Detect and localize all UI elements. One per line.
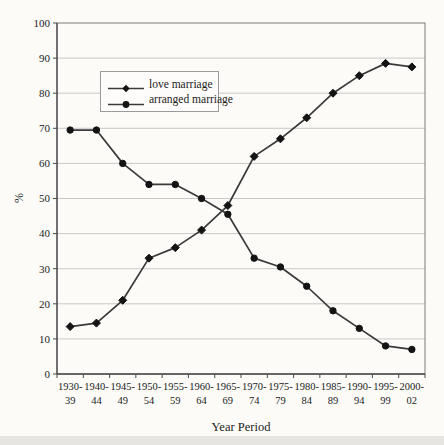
x-tick-label: 1960-64	[189, 381, 214, 406]
x-tick-label: 1980-84	[294, 381, 319, 406]
x-tick-label: 1950-54	[137, 381, 162, 406]
data-point-arranged-marriage	[146, 181, 152, 187]
x-tick-label: 1990-94	[347, 381, 372, 406]
y-tick-label: 40	[39, 227, 51, 239]
y-tick-label: 50	[39, 192, 51, 204]
legend-label: love marriage	[149, 78, 213, 90]
data-point-love-marriage	[382, 59, 390, 67]
data-point-arranged-marriage	[120, 160, 126, 166]
x-tick-label: 1995-99	[373, 381, 398, 406]
data-point-love-marriage	[408, 63, 416, 71]
y-tick-label: 10	[39, 333, 51, 345]
chart-plot-area: 01020304050607080901001930-391940-441945…	[0, 0, 444, 445]
x-tick-label: 1985-89	[321, 381, 346, 406]
data-point-arranged-marriage	[225, 211, 231, 217]
data-point-arranged-marriage	[330, 308, 336, 314]
data-point-arranged-marriage	[356, 325, 362, 331]
x-tick-label: 1930-39	[58, 381, 83, 406]
data-point-arranged-marriage	[251, 255, 257, 261]
legend-label: arranged marriage	[149, 93, 233, 105]
data-point-arranged-marriage	[382, 343, 388, 349]
y-tick-label: 0	[45, 368, 51, 380]
data-point-arranged-marriage	[67, 127, 73, 133]
data-point-arranged-marriage	[277, 264, 283, 270]
legend-entry-arranged-marriage: arranged marriage	[107, 93, 214, 105]
x-tick-label: 1965-69	[216, 381, 241, 406]
data-point-love-marriage	[66, 323, 74, 331]
data-point-arranged-marriage	[304, 283, 310, 289]
marriage-trend-chart: 01020304050607080901001930-391940-441945…	[0, 0, 444, 445]
x-tick-label: 1940-44	[84, 381, 109, 406]
x-tick-label: 1955-59	[163, 381, 188, 406]
data-point-arranged-marriage	[409, 346, 415, 352]
y-tick-label: 60	[39, 157, 51, 169]
legend-entry-love-marriage: love marriage	[107, 78, 214, 90]
y-tick-label: 90	[39, 52, 51, 64]
data-point-arranged-marriage	[172, 181, 178, 187]
data-point-love-marriage	[145, 254, 153, 262]
x-axis-title: Year Period	[57, 420, 425, 435]
scan-edge-band	[0, 436, 444, 445]
data-point-arranged-marriage	[93, 127, 99, 133]
y-tick-label: 20	[39, 298, 51, 310]
diamond-icon	[107, 79, 145, 88]
circle-icon	[107, 95, 145, 104]
y-tick-label: 100	[34, 17, 51, 29]
x-tick-label: 1970-74	[242, 381, 267, 406]
x-tick-label: 2000-02	[400, 381, 425, 406]
data-point-arranged-marriage	[198, 195, 204, 201]
x-tick-label: 1945-49	[110, 381, 135, 406]
y-tick-label: 80	[39, 87, 51, 99]
y-tick-label: 30	[39, 263, 51, 275]
x-tick-label: 1975-79	[268, 381, 293, 406]
y-tick-label: 70	[39, 122, 51, 134]
legend: love marriage arranged marriage	[100, 71, 219, 112]
y-axis-title: %	[11, 183, 27, 213]
